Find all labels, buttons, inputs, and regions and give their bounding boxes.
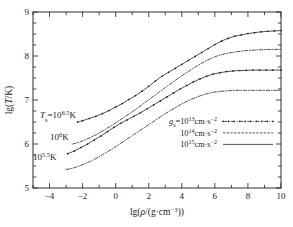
legend-g13: gs=1013cm·s−2 (169, 116, 274, 128)
x-axis-ticks: −4−20246810 (33, 12, 286, 201)
y-tick-label: 6 (25, 139, 30, 149)
legend-g13-swatch-dot (244, 121, 246, 123)
legend-g13-swatch-dot (239, 121, 241, 123)
curve-0-marker (181, 64, 183, 66)
curve-0-marker (95, 115, 97, 117)
legend-g13-swatch-dot (250, 121, 252, 123)
curve-0-marker (207, 48, 209, 50)
curve-0-marker (214, 44, 216, 46)
curve-0-marker (82, 120, 84, 122)
curve-0-marker (161, 75, 163, 77)
curve-2-marker (80, 147, 82, 149)
curve-2-marker (140, 112, 142, 114)
x-tick-label: 2 (146, 191, 151, 201)
curve-2-marker (245, 69, 247, 71)
curve-2-marker (193, 81, 195, 83)
svg-text:1015cm·s−2: 1015cm·s−2 (180, 139, 217, 149)
legend-g13-swatch-dot (261, 121, 263, 123)
curve-2-marker (265, 69, 267, 71)
y-axis-ticks: 56789 (25, 7, 282, 193)
x-axis-title: lg(ρ/(g·cm−3)) (130, 206, 184, 219)
curve-2-marker (199, 78, 201, 80)
curve-0-marker (168, 71, 170, 73)
curve-0-marker (227, 38, 229, 40)
ts-label-6: 106K (50, 131, 69, 143)
curve-2-marker (107, 131, 109, 133)
curve-2-marker (166, 96, 168, 98)
annotations: Ts=106.5K106K105.5K (33, 109, 77, 163)
plot-frame (33, 12, 281, 188)
x-tick-label: 4 (180, 191, 185, 201)
y-tick-label: 8 (25, 51, 30, 61)
curve-2-marker (212, 73, 214, 75)
curve-2-marker (232, 70, 234, 72)
curve-0-marker (128, 99, 130, 101)
curve-2-marker (186, 85, 188, 87)
svg-text:106K: 106K (50, 131, 69, 143)
curve-2-marker (100, 135, 102, 137)
y-tick-label: 7 (25, 95, 30, 105)
y-tick-label: 9 (25, 7, 30, 17)
curve-2-marker (226, 71, 228, 73)
legend-g13-swatch-dot (267, 121, 269, 123)
curve-2-marker (87, 143, 89, 145)
curve-2-marker (126, 119, 128, 121)
curve-2-marker (272, 69, 274, 71)
svg-text:gs=1013cm·s−2: gs=1013cm·s−2 (169, 116, 217, 128)
curve-0-marker (280, 30, 282, 32)
svg-text:lg(T/K): lg(T/K) (4, 86, 15, 115)
x-tick-label: 6 (213, 191, 218, 201)
legend-g13-swatch-dot (233, 121, 235, 123)
curve-2-marker (239, 70, 241, 72)
curve-1 (73, 49, 281, 144)
x-tick-label: 8 (246, 191, 251, 201)
figure-container: −4−2024681056789lg(ρ/(g·cm−3))lg(T/K)Ts=… (0, 0, 293, 227)
curve-2-marker (113, 126, 115, 128)
curve-2-marker (93, 139, 95, 141)
curve-0-marker (115, 106, 117, 108)
curve-0-marker (155, 80, 157, 82)
ts-label-55: 105.5K (33, 151, 57, 163)
curve-2-marker (259, 69, 261, 71)
curve-2-marker (280, 69, 282, 71)
y-axis-title: lg(T/K) (4, 86, 15, 115)
legend-g13-swatch-dot (228, 121, 230, 123)
legend-g13-swatch-dot (256, 121, 258, 123)
x-tick-label: −4 (45, 191, 55, 201)
curve-0-marker (194, 56, 196, 58)
curve-0-marker (108, 110, 110, 112)
curve-0-marker (174, 67, 176, 69)
legend-g15: 1015cm·s−2 (180, 139, 273, 149)
legend-g14: 1014cm·s−2 (180, 128, 273, 138)
curve-0 (78, 30, 281, 122)
curve-0-marker (141, 90, 143, 92)
curve-2-marker (173, 92, 175, 94)
ts-label-65: Ts=106.5K (40, 109, 77, 123)
plot-canvas: −4−2024681056789lg(ρ/(g·cm−3))lg(T/K)Ts=… (0, 0, 293, 227)
curve-0-marker (88, 118, 90, 120)
axes-frame (33, 12, 281, 188)
legend-g13-swatch-dot (272, 121, 274, 123)
curve-2-marker (252, 69, 254, 71)
curve-0-marker (188, 60, 190, 62)
curve-0-marker (221, 40, 223, 42)
curve-0-marker (234, 35, 236, 37)
curve-2-marker (219, 72, 221, 74)
curve-0-marker (254, 32, 256, 34)
curve-2-marker (67, 153, 69, 155)
svg-text:105.5K: 105.5K (33, 151, 57, 163)
curve-2-marker (133, 115, 135, 117)
svg-text:1014cm·s−2: 1014cm·s−2 (180, 128, 217, 138)
curve-0-marker (148, 86, 150, 88)
y-tick-label: 5 (25, 183, 30, 193)
curve-2-marker (159, 100, 161, 102)
curve-2-marker (146, 108, 148, 110)
svg-text:Ts=106.5K: Ts=106.5K (40, 109, 77, 123)
x-tick-label: 0 (113, 191, 118, 201)
curve-0-marker (267, 31, 269, 33)
curve-2-marker (153, 104, 155, 106)
curve-3 (66, 90, 281, 169)
curve-0-marker (121, 103, 123, 105)
legend: gs=1013cm·s−21014cm·s−21015cm·s−2 (169, 116, 274, 149)
curve-0-marker (135, 95, 137, 97)
